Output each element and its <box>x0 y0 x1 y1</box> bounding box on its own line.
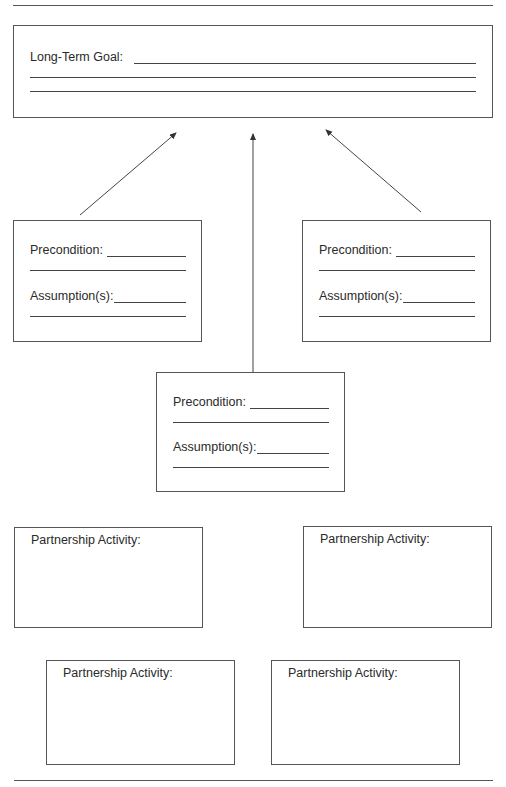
partnership-activity-label: Partnership Activity: <box>31 533 141 547</box>
partnership-activity-box-1[interactable]: Partnership Activity: <box>14 527 203 628</box>
precondition-label: Precondition: <box>319 243 392 257</box>
precondition-blank-line-2[interactable] <box>173 422 329 423</box>
assumptions-blank-line-2[interactable] <box>30 316 186 317</box>
precondition-blank-line[interactable] <box>107 256 186 257</box>
precondition-box-right: Precondition: Assumption(s): <box>302 220 491 342</box>
assumptions-blank-line[interactable] <box>114 302 186 303</box>
assumptions-blank-line[interactable] <box>257 453 329 454</box>
partnership-activity-box-3[interactable]: Partnership Activity: <box>46 660 235 765</box>
partnership-activity-box-2[interactable]: Partnership Activity: <box>303 526 492 628</box>
precondition-blank-line-2[interactable] <box>319 270 475 271</box>
arrow-right-to-goal <box>326 130 421 212</box>
precondition-box-left: Precondition: Assumption(s): <box>13 220 202 342</box>
partnership-activity-label: Partnership Activity: <box>320 532 430 546</box>
precondition-box-center: Precondition: Assumption(s): <box>156 372 345 492</box>
assumptions-label: Assumption(s): <box>319 289 402 303</box>
assumptions-blank-line[interactable] <box>403 302 475 303</box>
precondition-blank-line[interactable] <box>250 408 329 409</box>
assumptions-label: Assumption(s): <box>173 440 256 454</box>
precondition-blank-line-2[interactable] <box>30 270 186 271</box>
arrow-left-to-goal <box>80 133 176 215</box>
assumptions-label: Assumption(s): <box>30 289 113 303</box>
precondition-label: Precondition: <box>30 243 103 257</box>
partnership-activity-box-4[interactable]: Partnership Activity: <box>271 660 460 765</box>
partnership-activity-label: Partnership Activity: <box>63 666 173 680</box>
precondition-blank-line[interactable] <box>396 256 475 257</box>
assumptions-blank-line-2[interactable] <box>173 467 329 468</box>
bottom-rule <box>14 780 493 781</box>
assumptions-blank-line-2[interactable] <box>319 316 475 317</box>
precondition-label: Precondition: <box>173 395 246 409</box>
partnership-activity-label: Partnership Activity: <box>288 666 398 680</box>
